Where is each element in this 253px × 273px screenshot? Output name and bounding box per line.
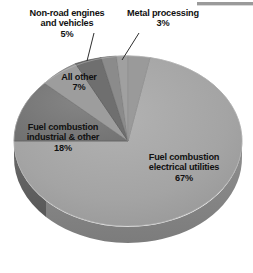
slice-label-line2: industrial & other: [27, 132, 99, 142]
slice-label-percent: 18%: [4, 143, 122, 153]
slice-label-metal-processing: Metal processing 3%: [110, 8, 216, 29]
slice-label-line1: Non-road engines: [30, 8, 105, 18]
chart-canvas: Non-road engines and vehicles 5% Metal p…: [0, 0, 253, 273]
slice-label-percent: 7%: [36, 82, 122, 92]
slice-label-fuel-combustion-electrical-utilities: Fuel combustion electrical utilities 67%: [128, 152, 240, 183]
slice-label-line1: All other: [61, 72, 96, 82]
slice-label-non-road-engines-and-vehicles: Non-road engines and vehicles 5%: [8, 8, 126, 39]
slice-label-fuel-combustion-industrial-and-other: Fuel combustion industrial & other 18%: [4, 122, 122, 153]
slice-label-line1: Metal processing: [127, 8, 199, 18]
slice-label-all-other: All other 7%: [36, 72, 122, 93]
slice-label-percent: 3%: [110, 18, 216, 28]
slice-label-line2: electrical utilities: [149, 162, 220, 172]
slice-label-percent: 67%: [128, 173, 240, 183]
slice-label-line2: and vehicles: [41, 18, 94, 28]
slice-label-percent: 5%: [8, 29, 126, 39]
slice-label-line1: Fuel combustion: [149, 152, 220, 162]
slice-label-line1: Fuel combustion: [28, 122, 99, 132]
